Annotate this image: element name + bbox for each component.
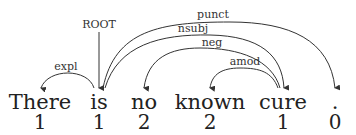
arc-punct [103, 22, 335, 88]
arc-label-punct: punct [197, 8, 229, 21]
token-index: 2 [204, 110, 217, 134]
arc-label-neg: neg [202, 36, 223, 49]
token-index: 1 [93, 110, 106, 134]
token-index: 0 [329, 110, 342, 134]
token-index: 2 [138, 110, 151, 134]
token-index: 1 [277, 110, 290, 134]
dependency-diagram: ROOT expl punct nsubj neg amod There is … [0, 0, 356, 135]
arc-label-nsubj: nsubj [178, 22, 208, 35]
arc-label-amod: amod [230, 55, 261, 68]
arc-expl [41, 73, 94, 88]
arc-label-expl: expl [54, 60, 78, 73]
token-index: 1 [34, 110, 47, 134]
root-label: ROOT [82, 18, 116, 31]
arc-amod [210, 68, 278, 88]
